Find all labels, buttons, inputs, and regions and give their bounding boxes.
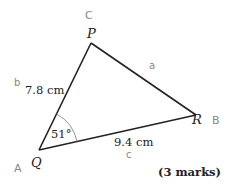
annotation-b-vertex: B (212, 114, 220, 127)
annotation-c-vertex: C (85, 9, 93, 22)
angle-q-label: 51° (51, 127, 71, 141)
annotation-b-side: b (14, 77, 20, 88)
triangle-diagram: P Q R C A B b a c 7.8 cm 9.4 cm 51° (3 m… (0, 0, 232, 188)
vertex-label-q: Q (31, 155, 42, 170)
annotation-a-side: a (149, 60, 155, 71)
vertex-label-p: P (86, 26, 96, 41)
length-qr: 9.4 cm (114, 135, 153, 149)
length-pq: 7.8 cm (25, 83, 64, 97)
side-pr (91, 43, 196, 115)
annotation-c-side: c (126, 149, 132, 160)
annotation-a-vertex: A (14, 162, 22, 175)
marks-label: (3 marks) (158, 165, 221, 179)
vertex-label-r: R (191, 112, 202, 127)
